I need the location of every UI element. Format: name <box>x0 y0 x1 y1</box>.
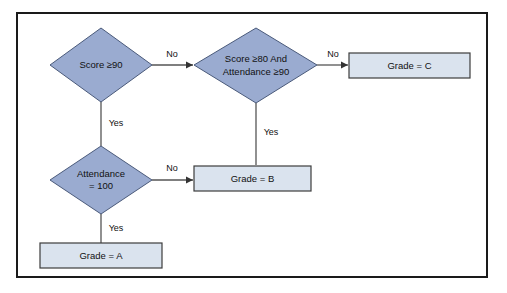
edge-label-score90-yes: Yes <box>109 118 124 128</box>
edge-score80-yes: Yes <box>256 103 279 165</box>
node-score90[interactable]: Score ≥90 <box>50 28 152 102</box>
node-label-attendance100-line1: Attendance <box>77 168 125 179</box>
flowchart: No Yes No Yes No Yes <box>0 0 507 293</box>
node-label-grade-b: Grade = B <box>231 173 275 184</box>
edge-label-score80-no: No <box>327 49 339 59</box>
edge-score90-no: No <box>152 49 193 68</box>
edge-attendance100-yes: Yes <box>101 214 124 243</box>
node-label-grade-a: Grade = A <box>79 250 123 261</box>
edge-score90-yes: Yes <box>101 102 124 146</box>
node-attendance100[interactable]: Attendance = 100 <box>50 146 152 214</box>
node-label-attendance100-line2: = 100 <box>89 180 113 191</box>
node-label-score80-line1: Score ≥80 And <box>225 53 287 64</box>
node-grade-c[interactable]: Grade = C <box>349 53 470 78</box>
edge-score80-no: No <box>317 49 348 68</box>
node-grade-a[interactable]: Grade = A <box>40 243 162 268</box>
node-grade-b[interactable]: Grade = B <box>194 166 311 191</box>
edge-label-score80-yes: Yes <box>264 127 279 137</box>
node-score80-and-attendance90[interactable]: Score ≥80 And Attendance ≥90 <box>194 28 317 103</box>
edge-attendance100-no: No <box>152 163 193 183</box>
edge-label-attendance100-yes: Yes <box>109 223 124 233</box>
node-label-score80-line2: Attendance ≥90 <box>223 66 290 77</box>
edge-label-attendance100-no: No <box>166 163 178 173</box>
node-label-score90-line1: Score ≥90 <box>79 59 122 70</box>
edge-label-score90-no: No <box>166 49 178 59</box>
node-label-grade-c: Grade = C <box>387 60 431 71</box>
screenshot-canvas: No Yes No Yes No Yes <box>0 0 507 293</box>
